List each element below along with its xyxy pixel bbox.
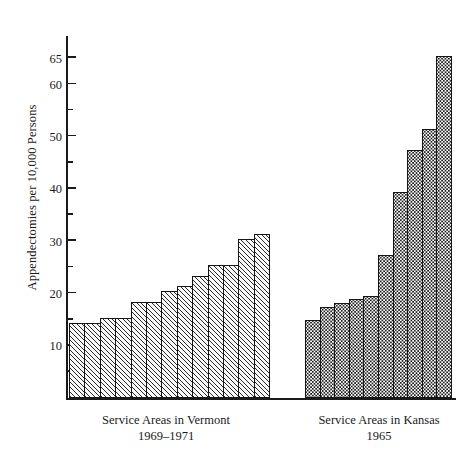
bar-series-kansas (305, 36, 451, 398)
bar-kansas-5 (363, 296, 379, 398)
y-tick-label-65: 65 (22, 53, 62, 66)
bar-kansas-4 (349, 299, 365, 398)
bar-kansas-7 (393, 192, 409, 398)
appendectomy-rate-bar-chart: Appendectomies per 10,000 Persons 102030… (0, 0, 476, 460)
x-axis-caption-kansas: Service Areas in Kansas 1965 (294, 412, 464, 444)
bar-vermont-5 (131, 302, 148, 398)
bar-vermont-1 (69, 323, 86, 398)
bar-vermont-3 (100, 318, 117, 398)
y-tick-label-40: 40 (22, 183, 62, 196)
bar-vermont-13 (254, 234, 271, 398)
bar-kansas-3 (334, 303, 350, 398)
bar-kansas-2 (320, 307, 336, 398)
bar-vermont-4 (115, 318, 132, 398)
x-axis-caption-vermont: Service Areas in Vermont 1969–1971 (56, 412, 276, 444)
bar-vermont-8 (177, 286, 194, 398)
bar-kansas-9 (422, 129, 438, 398)
y-tick-label-50: 50 (22, 131, 62, 144)
caption-kansas-line2: 1965 (294, 428, 464, 444)
bar-vermont-2 (84, 323, 101, 398)
bar-vermont-12 (238, 239, 255, 398)
bar-kansas-6 (378, 255, 394, 398)
caption-kansas-line1: Service Areas in Kansas (318, 413, 439, 427)
y-tick-label-10: 10 (22, 340, 62, 353)
y-tick-label-30: 30 (22, 236, 62, 249)
bar-vermont-10 (208, 265, 225, 398)
y-axis-title: Appendectomies per 10,000 Persons (25, 48, 40, 348)
bar-kansas-10 (436, 56, 452, 398)
plot-area: 10203040506065 (66, 36, 456, 400)
bar-series-vermont (69, 36, 269, 398)
bar-vermont-9 (192, 276, 209, 398)
bar-kansas-8 (407, 150, 423, 398)
bar-vermont-11 (223, 265, 240, 398)
caption-vermont-line2: 1969–1971 (56, 428, 276, 444)
bar-vermont-6 (146, 302, 163, 398)
bar-group-kansas (305, 36, 451, 398)
x-axis-baseline (66, 398, 456, 400)
bar-vermont-7 (161, 291, 178, 398)
y-tick-label-20: 20 (22, 288, 62, 301)
bar-group-vermont (69, 36, 269, 398)
y-tick-label-60: 60 (22, 79, 62, 92)
caption-vermont-line1: Service Areas in Vermont (102, 413, 230, 427)
bar-kansas-1 (305, 320, 321, 398)
